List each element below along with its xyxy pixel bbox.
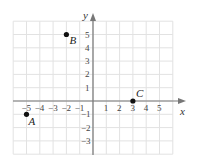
y-tick-label: 2 bbox=[85, 69, 90, 79]
x-tick-label: −4 bbox=[35, 103, 45, 113]
x-arrow-icon bbox=[178, 98, 186, 104]
x-tick-label: 3 bbox=[130, 103, 135, 113]
point-label-b: B bbox=[69, 34, 76, 46]
coordinate-plane: x y −5−4−3−2−11234554321−1−2−3 ABC bbox=[0, 0, 198, 165]
y-tick-label: −3 bbox=[81, 136, 91, 146]
x-tick-label: −5 bbox=[22, 103, 32, 113]
y-tick-label: 5 bbox=[85, 30, 90, 40]
point-b bbox=[64, 32, 69, 37]
y-tick-label: −1 bbox=[81, 109, 91, 119]
x-tick-label: −2 bbox=[61, 103, 71, 113]
y-tick-label: 1 bbox=[85, 83, 90, 93]
y-tick-label: −2 bbox=[81, 123, 91, 133]
point-label-a: A bbox=[28, 115, 36, 127]
x-tick-label: 5 bbox=[157, 103, 162, 113]
x-tick-label: 2 bbox=[117, 103, 122, 113]
y-axis-label: y bbox=[82, 9, 88, 21]
y-arrow-icon bbox=[90, 13, 96, 21]
x-axis-label: x bbox=[179, 105, 185, 117]
y-tick-label: 3 bbox=[85, 56, 90, 66]
point-label-c: C bbox=[136, 87, 144, 99]
x-tick-label: 4 bbox=[144, 103, 149, 113]
y-tick-label: 4 bbox=[85, 43, 90, 53]
x-tick-label: −3 bbox=[48, 103, 58, 113]
x-tick-label: 1 bbox=[104, 103, 109, 113]
point-c bbox=[130, 98, 135, 103]
